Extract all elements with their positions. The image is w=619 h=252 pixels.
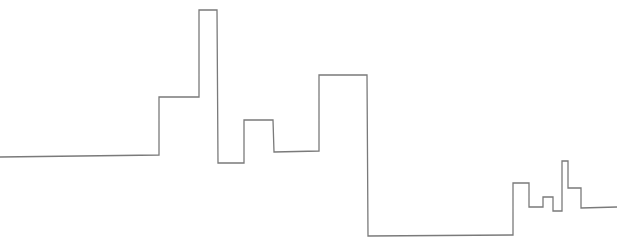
drawing-canvas	[0, 0, 619, 252]
skyline-line-drawing	[0, 0, 619, 252]
skyline-polyline	[0, 10, 617, 236]
